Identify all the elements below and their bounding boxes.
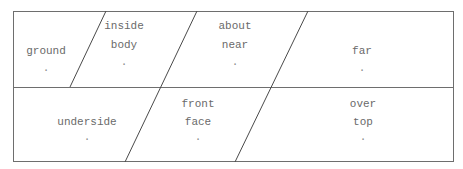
cell-dot: . [313,131,413,144]
cell-line-1: over [313,98,413,111]
cell-dot: . [37,131,137,144]
cell-line-1 [37,98,137,111]
cell-line-2: near [185,39,285,52]
cell-dot: . [312,62,412,75]
cell-inside-body: inside body . [74,20,174,69]
cell-line-1 [312,20,412,33]
cell-underside: underside . [37,98,137,144]
cell-about-near: about near . [185,20,285,69]
cell-dot: . [148,131,248,144]
cell-line-2: far [312,45,412,58]
cell-far: far . [312,20,412,75]
cell-line-1: about [185,20,285,33]
cell-line-2: body [74,39,174,52]
cell-over-top: over top . [313,98,413,144]
cell-line-2: top [313,116,413,129]
cell-line-1: inside [74,20,174,33]
cell-line-1: front [148,98,248,111]
cell-front-face: front face . [148,98,248,144]
cell-line-2: underside [37,116,137,129]
cell-line-2: face [148,116,248,129]
cell-dot: . [74,56,174,69]
cell-dot: . [185,56,285,69]
spatial-terms-diagram: ground . inside body . about near . far … [0,0,463,169]
